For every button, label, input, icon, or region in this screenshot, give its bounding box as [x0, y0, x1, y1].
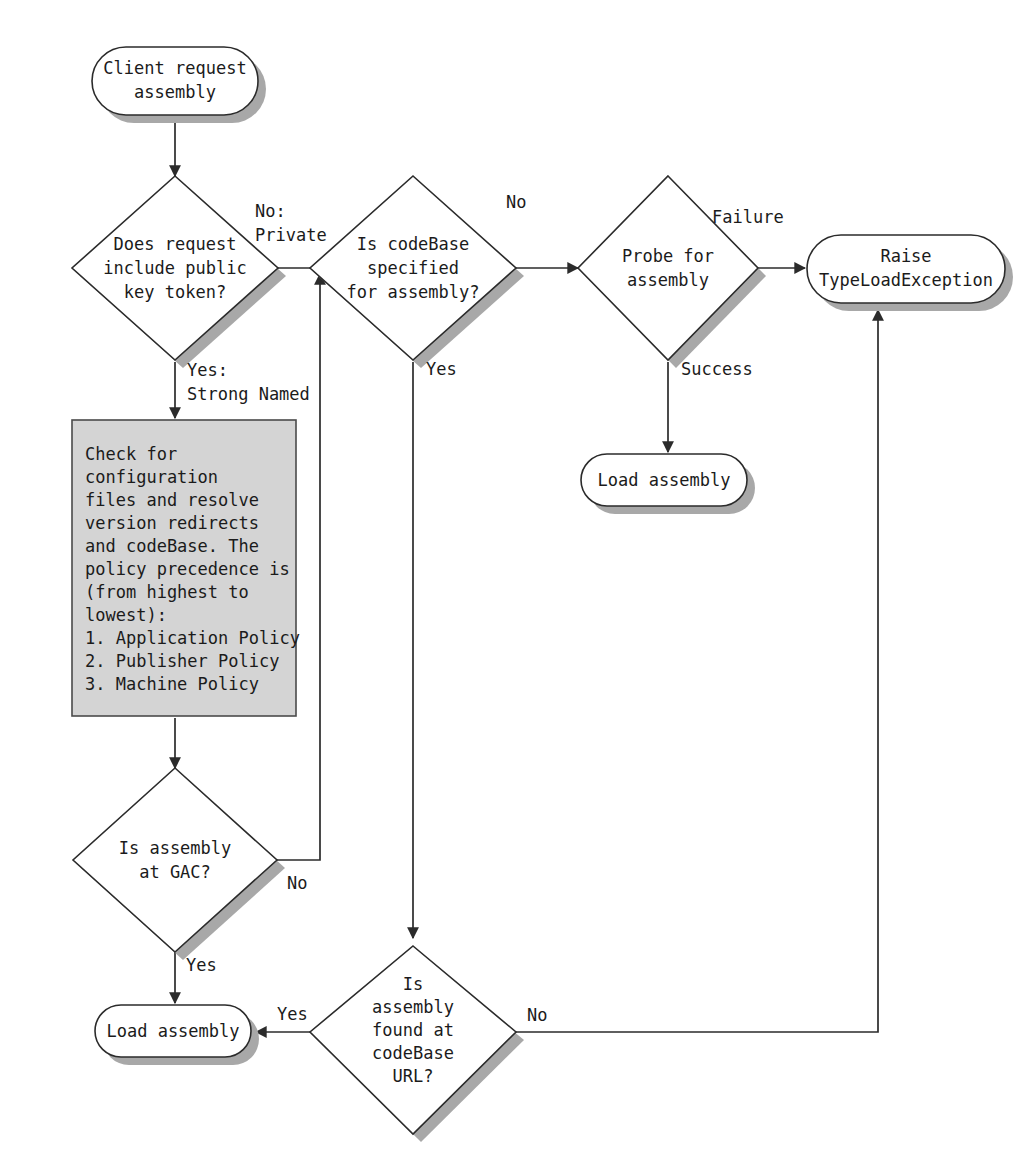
process-label-line8: lowest): [85, 605, 167, 625]
exception-label-line1: Raise [880, 246, 931, 266]
process-label-line9: 1. Application Policy [85, 628, 300, 648]
gac-label-line2: at GAC? [139, 862, 211, 882]
node-is-assembly-found-at-codebase-url[interactable]: Is assembly found at codeBase URL? [310, 946, 524, 1142]
process-label-line7: (from highest to [85, 582, 249, 602]
url-label-line2: assembly [372, 997, 454, 1017]
process-label-line11: 3. Machine Policy [85, 674, 259, 694]
probe-shape [578, 176, 758, 360]
node-does-request-include-public-key-token[interactable]: Does request include public key token? [72, 176, 286, 368]
probe-label-line2: assembly [627, 270, 709, 290]
edge-label-codebase-no: No [506, 192, 526, 212]
probe-label-line1: Probe for [622, 246, 714, 266]
node-client-request-assembly[interactable]: Client request assembly [92, 47, 266, 123]
exception-label-line2: TypeLoadException [819, 270, 993, 290]
process-label-line3: files and resolve [85, 490, 259, 510]
edge-url-no-to-exception [516, 310, 878, 1032]
process-label-line6: policy precedence is [85, 559, 290, 579]
process-label-line4: version redirects [85, 513, 259, 533]
node-is-codebase-specified-for-assembly[interactable]: Is codeBase specified for assembly? [310, 176, 524, 368]
url-label-line4: codeBase [372, 1043, 454, 1063]
edge-label-url-yes: Yes [277, 1004, 308, 1024]
codebase-label-line3: for assembly? [346, 282, 479, 302]
node-is-assembly-at-gac[interactable]: Is assembly at GAC? [73, 768, 285, 960]
node-load-assembly-probe[interactable]: Load assembly [581, 454, 755, 514]
edge-label-codebase-yes: Yes [426, 359, 457, 379]
start-label-line1: Client request [103, 58, 246, 78]
edge-label-no-private-line1: No: [255, 201, 286, 221]
edge-label-no-private-line2: Private [255, 225, 327, 245]
start-label-line2: assembly [134, 82, 216, 102]
flowchart-svg: Client request assembly Does request inc… [0, 0, 1022, 1176]
process-label-line1: Check for [85, 444, 177, 464]
node-probe-for-assembly[interactable]: Probe for assembly [578, 176, 766, 368]
flowchart-canvas: Client request assembly Does request inc… [0, 0, 1022, 1176]
node-raise-typeloadexception[interactable]: Raise TypeLoadException [807, 235, 1013, 311]
codebase-label-line2: specified [367, 258, 459, 278]
node-load-assembly-gac[interactable]: Load assembly [95, 1005, 259, 1065]
edge-label-yes-strong-line1: Yes: [187, 360, 228, 380]
load-probe-label: Load assembly [597, 470, 730, 490]
gac-label-line1: Is assembly [119, 838, 232, 858]
url-label-line3: found at [372, 1020, 454, 1040]
edge-label-gac-no: No [287, 873, 307, 893]
node-check-configuration-process[interactable]: Check for configuration files and resolv… [72, 420, 300, 716]
publickey-label-line1: Does request [114, 234, 237, 254]
edge-label-probe-failure: Failure [712, 207, 784, 227]
gac-shape [73, 768, 277, 952]
edge-label-url-no: No [527, 1005, 547, 1025]
publickey-label-line3: key token? [124, 282, 226, 302]
edge-label-probe-success: Success [681, 359, 753, 379]
process-label-line10: 2. Publisher Policy [85, 651, 279, 671]
publickey-label-line2: include public [103, 258, 246, 278]
codebase-label-line1: Is codeBase [357, 234, 470, 254]
load-gac-label: Load assembly [106, 1021, 239, 1041]
edge-label-yes-strong-line2: Strong Named [187, 384, 310, 404]
url-label-line1: Is [403, 974, 423, 994]
url-label-line5: URL? [393, 1066, 434, 1086]
process-label-line2: configuration [85, 467, 218, 487]
edge-label-gac-yes: Yes [186, 955, 217, 975]
process-label-line5: and codeBase. The [85, 536, 259, 556]
